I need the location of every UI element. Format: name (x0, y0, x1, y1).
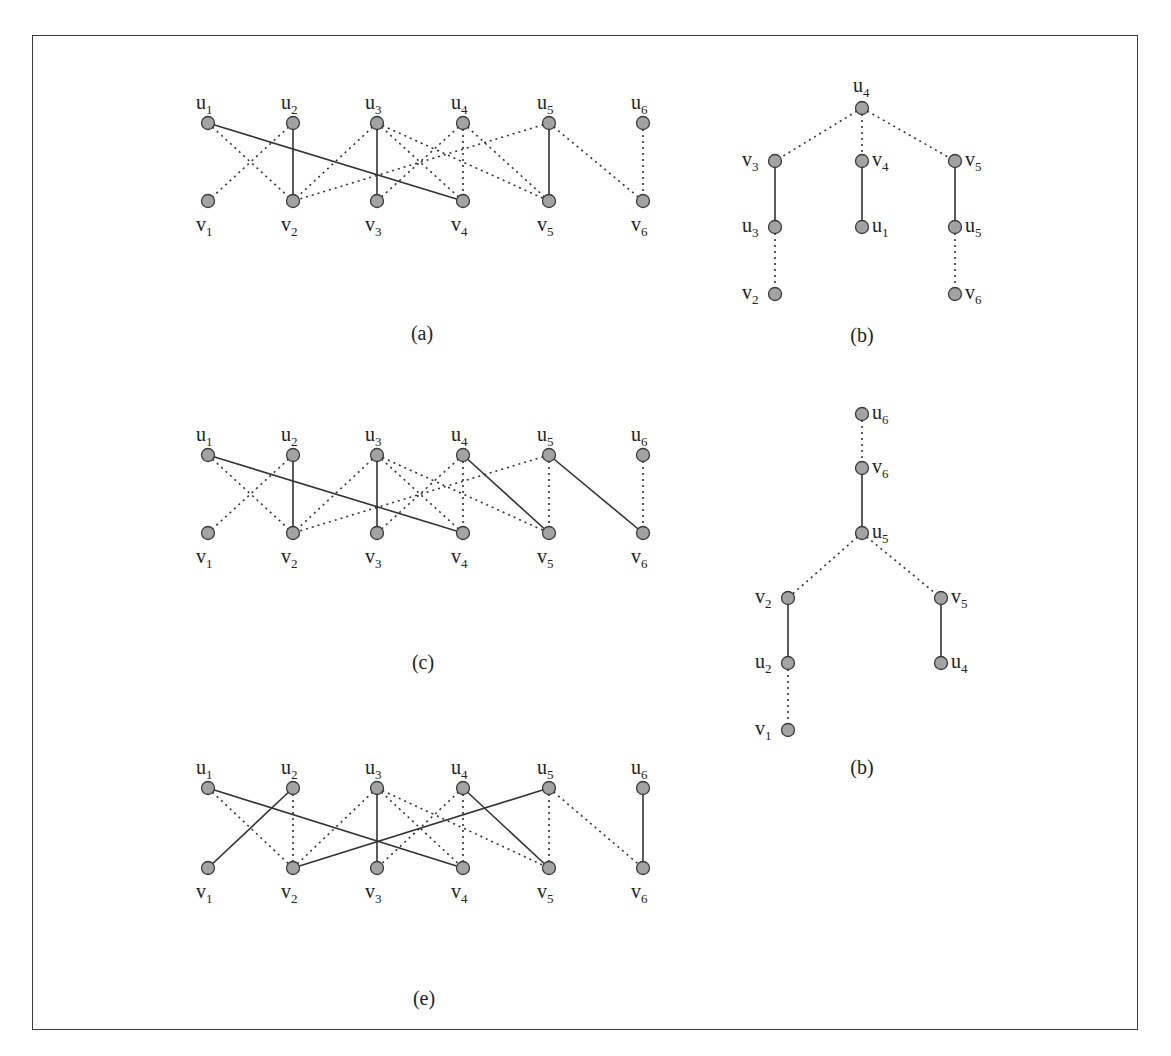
label-u4: u4 (451, 756, 468, 782)
edge-u4-v3 (377, 455, 463, 533)
caption-b2: (b) (850, 756, 873, 779)
node-v3 (371, 862, 384, 875)
label-v5: v5 (537, 545, 554, 571)
node-v6 (949, 288, 962, 301)
edge-u1-v4 (208, 788, 463, 868)
label-v4: v4 (872, 148, 889, 174)
edges (208, 455, 643, 533)
node-u5 (543, 782, 556, 795)
label-v6: v6 (631, 545, 648, 571)
node-u4 (457, 449, 470, 462)
node-u3 (769, 221, 782, 234)
edge-u5-v2 (788, 533, 862, 598)
label-v4: v4 (451, 213, 468, 239)
caption-a: (a) (411, 322, 433, 345)
node-u3 (371, 449, 384, 462)
node-v6 (637, 862, 650, 875)
edge-u5-v6 (549, 455, 643, 533)
label-v6: v6 (872, 455, 889, 481)
node-v6 (637, 195, 650, 208)
label-u5: u5 (537, 91, 554, 117)
node-u6 (637, 449, 650, 462)
bipartite-graph-c: u1v1u2v2u3v3u4v4u5v5u6v6(c) (196, 423, 650, 674)
label-u1: u1 (196, 756, 213, 782)
bipartite-graph-a: u1v1u2v2u3v3u4v4u5v5u6v6(a) (196, 91, 650, 345)
edge-u4-v3 (775, 108, 862, 161)
bipartite-graph-e: u1v1u2v2u3v3u4v4u5v5u6v6(e) (196, 756, 650, 1010)
edge-u1-v4 (208, 455, 463, 533)
node-u1 (202, 782, 215, 795)
label-v5: v5 (965, 148, 982, 174)
edge-u2-v1 (208, 788, 293, 868)
tree-b2: u6v6u5v2v5u2u4v1(b) (755, 401, 968, 779)
edge-u3-v4 (377, 455, 463, 533)
label-v2: v2 (742, 281, 759, 307)
label-u4: u4 (951, 650, 968, 676)
edge-u4-v5 (463, 455, 549, 533)
label-u6: u6 (631, 756, 648, 782)
node-v2 (287, 527, 300, 540)
label-v6: v6 (631, 880, 648, 906)
label-u2: u2 (281, 756, 298, 782)
node-u2 (287, 449, 300, 462)
label-v2: v2 (755, 585, 772, 611)
node-u4 (457, 117, 470, 130)
node-u1 (202, 117, 215, 130)
label-v4: v4 (451, 545, 468, 571)
tree-b1: u4v3v4v5u3u1u5v2v6(b) (742, 74, 982, 347)
edge-u4-v3 (377, 123, 463, 201)
node-u2 (287, 117, 300, 130)
label-u6: u6 (631, 91, 648, 117)
label-u1: u1 (872, 214, 889, 240)
node-v5 (949, 155, 962, 168)
node-v3 (371, 527, 384, 540)
node-u4 (856, 102, 869, 115)
node-u2 (287, 782, 300, 795)
node-u4 (935, 657, 948, 670)
node-u6 (637, 117, 650, 130)
label-u1: u1 (196, 423, 213, 449)
label-u1: u1 (196, 91, 213, 117)
label-u3: u3 (365, 756, 382, 782)
caption-b1: (b) (850, 324, 873, 347)
label-u2: u2 (755, 650, 772, 676)
edge-u5-v2 (293, 788, 549, 868)
label-u5: u5 (872, 520, 889, 546)
label-v1: v1 (196, 880, 213, 906)
edge-u3-v4 (377, 123, 463, 201)
label-v2: v2 (281, 880, 298, 906)
edges (208, 788, 643, 868)
node-v4 (457, 195, 470, 208)
label-v6: v6 (631, 213, 648, 239)
node-v1 (202, 195, 215, 208)
label-v5: v5 (537, 213, 554, 239)
caption-e: (e) (413, 987, 435, 1010)
node-v1 (202, 862, 215, 875)
label-u3: u3 (365, 423, 382, 449)
edge-u5-v2 (293, 455, 549, 533)
label-u4: u4 (853, 74, 870, 100)
node-v1 (782, 724, 795, 737)
node-v2 (287, 862, 300, 875)
edge-u5-v5 (862, 533, 941, 598)
label-u3: u3 (365, 91, 382, 117)
label-v1: v1 (196, 545, 213, 571)
node-u4 (457, 782, 470, 795)
edge-u1-v2 (208, 123, 293, 201)
label-u4: u4 (451, 91, 468, 117)
label-v1: v1 (755, 717, 772, 743)
node-v5 (543, 195, 556, 208)
label-v2: v2 (281, 213, 298, 239)
label-v4: v4 (451, 880, 468, 906)
edge-u5-v6 (549, 123, 643, 201)
label-v1: v1 (196, 213, 213, 239)
node-u3 (371, 117, 384, 130)
node-v2 (782, 592, 795, 605)
node-u2 (782, 657, 795, 670)
label-v6: v6 (965, 281, 982, 307)
edge-u4-v5 (463, 788, 549, 868)
node-v6 (856, 462, 869, 475)
node-v5 (543, 862, 556, 875)
figure-canvas: u1v1u2v2u3v3u4v4u5v5u6v6(a)u1v1u2v2u3v3u… (0, 0, 1171, 1056)
label-u4: u4 (451, 423, 468, 449)
